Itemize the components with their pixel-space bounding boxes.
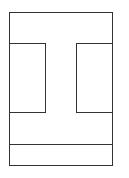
- outer-frame: [10, 13, 113, 166]
- right-panel: [77, 44, 113, 113]
- wireframe-diagram: [0, 0, 129, 178]
- left-panel: [10, 44, 46, 113]
- diagram-canvas: [0, 0, 129, 178]
